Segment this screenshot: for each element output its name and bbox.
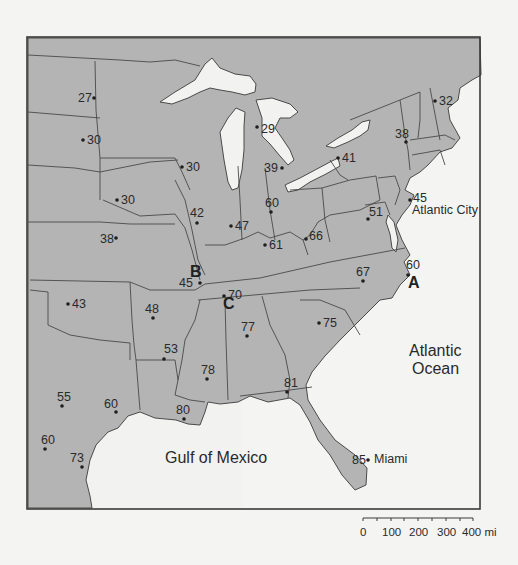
station-dot [245, 334, 249, 338]
station-dot [285, 390, 289, 394]
station-value: 67 [356, 265, 370, 279]
station-value: 30 [121, 193, 135, 207]
scale-tick-300: 300 [437, 526, 456, 538]
station-value: 30 [186, 160, 200, 174]
station-value: 39 [264, 161, 278, 175]
station-value: 85 [352, 453, 366, 467]
station-value: 77 [241, 320, 255, 334]
station-dot [408, 198, 412, 202]
station-dot [304, 237, 308, 241]
station-value: 73 [70, 451, 84, 465]
scale-tick-200: 200 [409, 526, 428, 538]
station-value: 30 [87, 133, 101, 147]
place-label-atlantic-city: Atlantic City [412, 203, 479, 217]
station-value: 60 [265, 196, 279, 210]
station-dot [162, 357, 166, 361]
station-dot [151, 316, 155, 320]
station-value: 53 [164, 342, 178, 356]
station-value: 38 [100, 232, 114, 246]
station-value: 27 [78, 91, 92, 105]
scale-tick-100: 100 [382, 526, 401, 538]
station-value: 48 [145, 302, 159, 316]
station-dot [195, 221, 199, 225]
station-value: 29 [261, 122, 275, 136]
station-value: 43 [72, 297, 86, 311]
station-dot [198, 281, 202, 285]
station-dot [92, 96, 96, 100]
station-dot [81, 138, 85, 142]
station-value: 51 [369, 205, 383, 219]
station-dot [433, 99, 437, 103]
place-label-miami: Miami [374, 452, 407, 466]
station-dot [366, 458, 370, 462]
scale-bar: 0 100 200 300 400 mi [360, 518, 497, 538]
station-value: 47 [235, 219, 249, 233]
station-dot [336, 156, 340, 160]
station-dot [269, 210, 273, 214]
scale-tick-400: 400 mi [462, 526, 497, 538]
station-dot [205, 377, 209, 381]
station-value: 66 [309, 229, 323, 243]
station-dot [80, 465, 84, 469]
station-value: 78 [201, 363, 215, 377]
water-label-gulf-of-mexico: Gulf of Mexico [165, 449, 267, 466]
station-dot [43, 447, 47, 451]
point-letter-a: A [408, 274, 420, 291]
station-dot [114, 236, 118, 240]
eastern-us-temperature-map: 2730303038424760616651452939413832457067… [0, 0, 518, 565]
station-value: 61 [269, 238, 283, 252]
station-dot [317, 321, 321, 325]
station-dot [180, 165, 184, 169]
station-value: 81 [284, 376, 298, 390]
point-letter-b: B [190, 263, 202, 280]
station-dot [280, 166, 284, 170]
station-value: 60 [41, 433, 55, 447]
station-dot [66, 302, 70, 306]
station-dot [182, 417, 186, 421]
station-dot [229, 224, 233, 228]
station-value: 32 [439, 94, 453, 108]
station-dot [263, 243, 267, 247]
station-dot [255, 125, 259, 129]
station-value: 80 [176, 403, 190, 417]
station-value: 60 [406, 258, 420, 272]
station-value: 41 [342, 151, 356, 165]
station-dot [361, 279, 365, 283]
station-dot [115, 198, 119, 202]
station-value: 42 [190, 206, 204, 220]
scale-tick-0: 0 [360, 526, 366, 538]
water-label-atlantic-ocean-line1: Atlantic [409, 342, 461, 359]
station-value: 60 [104, 397, 118, 411]
station-value: 38 [395, 127, 409, 141]
station-dot [60, 404, 64, 408]
water-label-atlantic-ocean-line2: Ocean [412, 360, 459, 377]
point-letter-c: C [223, 295, 235, 312]
station-value: 55 [57, 390, 71, 404]
station-value: 75 [323, 316, 337, 330]
